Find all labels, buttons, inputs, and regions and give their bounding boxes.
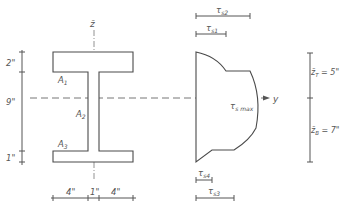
vertical-dimension-line (19, 50, 25, 165)
tau-s1-label: τs1 (206, 23, 218, 34)
dim-label-2in: 2" (6, 58, 15, 68)
dim-label-1in-horizontal: 1" (90, 187, 99, 197)
z-bottom-label: z̄B = 7" (310, 126, 340, 136)
tau-s4-label: τs4 (198, 168, 210, 179)
y-axis-arrow-icon (263, 96, 270, 101)
tau-s2-label: τs2 (216, 5, 228, 16)
tau-s3-label: τs3 (208, 186, 220, 197)
z-top-label: z̄T = 5" (310, 68, 339, 78)
area-label-a2: A2 (75, 109, 86, 120)
area-label-a3: A3 (57, 139, 68, 150)
shear-stress-diagram: y z̄ A1 A2 A3 2" 9" 1" 4" 1" 4" τs max τ… (0, 0, 344, 213)
dim-label-4in-left: 4" (66, 187, 75, 197)
y-axis-label: y (272, 94, 279, 104)
dim-label-9in: 9" (6, 97, 15, 107)
dim-label-4in-right: 4" (111, 187, 120, 197)
area-label-a1: A1 (57, 75, 68, 86)
z-axis-label: z̄ (89, 19, 95, 29)
dim-label-1in-vertical: 1" (6, 153, 15, 163)
